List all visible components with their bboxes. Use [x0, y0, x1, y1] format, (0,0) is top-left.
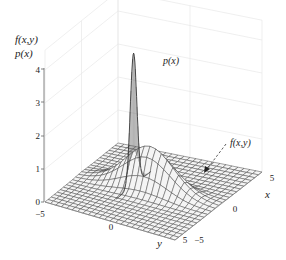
- z-tick-4: 4: [36, 65, 41, 75]
- y-axis-label: y: [156, 237, 162, 249]
- z-tick-1: 1: [36, 164, 41, 174]
- z-tick-3: 3: [36, 98, 41, 108]
- x-tick-neg5: −5: [194, 235, 204, 245]
- x-tick-5: 5: [270, 173, 275, 183]
- z-tick-0: 0: [36, 197, 41, 207]
- annotation-f: f(x,y): [230, 137, 251, 149]
- surface-plot: f(x,y) p(x) 0 1 2 3 4 −5 0 5 y −5 0 5 x …: [0, 0, 286, 260]
- x-axis-label: x: [264, 188, 270, 200]
- z-axis-label-f: f(x,y): [15, 33, 38, 46]
- y-tick-0: 0: [109, 222, 114, 232]
- z-tick-2: 2: [36, 131, 41, 141]
- z-axis-label-p: p(x): [14, 47, 33, 60]
- y-tick-5: 5: [183, 235, 188, 245]
- annotation-p: p(x): [162, 55, 180, 67]
- z-tick-labels: 0 1 2 3 4: [36, 65, 41, 207]
- y-tick-neg5: −5: [35, 209, 45, 219]
- x-tick-0: 0: [233, 204, 238, 214]
